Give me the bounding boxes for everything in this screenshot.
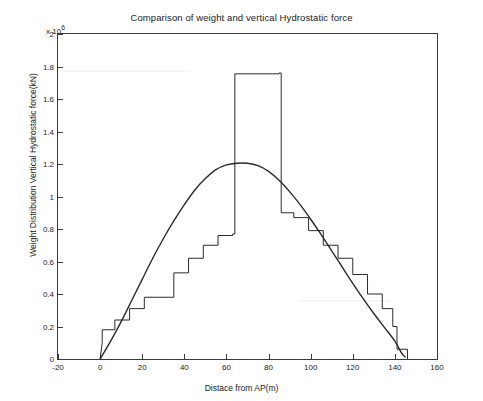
- x-tick-label: 0: [98, 363, 102, 372]
- x-axis-label: Distace from AP(m): [0, 383, 483, 393]
- y-tick-label: 2: [50, 30, 54, 39]
- x-tick-label: 140: [388, 363, 401, 372]
- vertical-hydrostatic-force-curve: [100, 163, 405, 359]
- chart-title: Comparison of weight and vertical Hydros…: [0, 12, 483, 23]
- x-tick-label: 40: [180, 363, 189, 372]
- y-tick-label: 0.2: [43, 322, 54, 331]
- y-tick-label: 1.6: [43, 95, 54, 104]
- y-tick-label: 0.8: [43, 225, 54, 234]
- chart-figure: Comparison of weight and vertical Hydros…: [0, 0, 483, 401]
- x-tick-label: 20: [138, 363, 147, 372]
- y-tick-label: 0.6: [43, 257, 54, 266]
- y-tick-label: 1: [50, 192, 54, 201]
- chart-series-svg: [58, 34, 437, 359]
- x-tick-label: 120: [346, 363, 359, 372]
- plot-area: 0 0.2 0.4 0.6 0.8 1 1.2 1.4 1.6 1.8 2 -2…: [57, 33, 438, 360]
- y-tick-label: 1.4: [43, 127, 54, 136]
- weight-distribution-step-line: [100, 73, 407, 359]
- x-tick-label: 80: [264, 363, 273, 372]
- x-tick-label: 60: [222, 363, 231, 372]
- y-tick-label: 1.8: [43, 62, 54, 71]
- x-tick-label: 100: [304, 363, 317, 372]
- y-tick-label: 0.4: [43, 290, 54, 299]
- y-axis-label: Weight Distribution Vertical Hydrostatic…: [28, 40, 38, 290]
- x-tick-label: -20: [52, 363, 64, 372]
- x-tick-label: 160: [430, 363, 443, 372]
- y-tick-label: 1.2: [43, 160, 54, 169]
- y-axis-exponent-power: 6: [61, 24, 65, 31]
